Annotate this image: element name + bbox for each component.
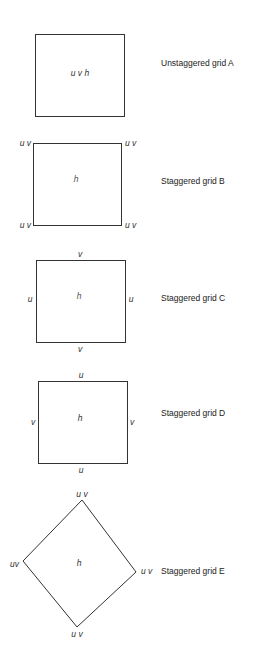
grid-b: h u v u v u v u v Staggered grid B (20, 138, 225, 230)
grid-a: u v h Unstaggered grid A (36, 35, 235, 117)
grid-c-left-label: u (28, 294, 33, 304)
grid-e-top-label: u v (76, 489, 88, 499)
grid-d-right-label: v (130, 417, 135, 427)
grid-staggering-diagram: u v h Unstaggered grid A h u v u v u v u… (0, 0, 257, 660)
grid-b-center-label: h (74, 174, 79, 184)
grid-b-cell (34, 144, 122, 226)
grid-b-top-left-label: u v (20, 138, 32, 148)
grid-c-top-label: v (78, 249, 83, 259)
grid-a-caption: Unstaggered grid A (161, 58, 234, 68)
grid-c-center-label: h (77, 291, 82, 301)
grid-b-bottom-right-label: u v (125, 220, 137, 230)
grid-d-top-label: u (79, 370, 84, 380)
grid-a-center-label: u v h (71, 68, 90, 78)
grid-d-cell (39, 382, 128, 464)
grid-c-caption: Staggered grid C (161, 293, 225, 303)
grid-e-caption: Staggered grid E (161, 566, 225, 576)
grid-d-bottom-label: u (79, 465, 84, 475)
grid-d-center-label: h (78, 413, 83, 423)
grid-e-right-label: u v (141, 566, 153, 576)
grid-e-center-label: h (77, 558, 82, 568)
grid-e: h u v uv u v u v Staggered grid E (10, 489, 225, 639)
grid-b-caption: Staggered grid B (161, 176, 225, 186)
grid-d-left-label: v (31, 417, 36, 427)
grid-d: h u u v v Staggered grid D (31, 370, 225, 475)
grid-e-bottom-label: u v (71, 629, 83, 639)
grid-b-top-right-label: u v (125, 138, 137, 148)
grid-b-bottom-left-label: u v (20, 220, 32, 230)
grid-c-cell (37, 261, 126, 343)
grid-c-bottom-label: v (78, 344, 83, 354)
grid-e-left-label: uv (10, 559, 20, 569)
grid-d-caption: Staggered grid D (161, 408, 225, 418)
grid-c-right-label: u (129, 294, 134, 304)
grid-c: h v v u u Staggered grid C (28, 249, 226, 354)
